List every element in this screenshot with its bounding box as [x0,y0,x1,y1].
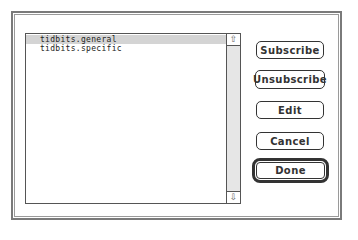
subscribe-button[interactable]: Subscribe [256,41,324,59]
scroll-up-arrow-icon[interactable]: ⇧ [227,34,240,46]
unsubscribe-button[interactable]: Unsubscribe [255,70,325,89]
cancel-button[interactable]: Cancel [256,132,324,150]
done-button[interactable]: Done [256,162,325,179]
scroll-down-arrow-icon[interactable]: ⇩ [227,191,240,203]
list-item-tidbits-general[interactable]: tidbits.general [26,35,226,44]
list-content: tidbits.general tidbits.specific [26,34,226,203]
newsgroup-list[interactable]: tidbits.general tidbits.specific ⇧ ⇩ [25,33,241,204]
vertical-scrollbar[interactable]: ⇧ ⇩ [226,34,240,203]
list-item-tidbits-specific[interactable]: tidbits.specific [26,44,226,53]
edit-button[interactable]: Edit [256,101,324,119]
